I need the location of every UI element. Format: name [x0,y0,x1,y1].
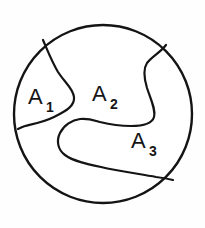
region-label-a2-letter: A [92,81,107,106]
region-label-a1-subscript: 1 [46,99,54,115]
region-label-a1-letter: A [28,84,43,109]
region-partition-diagram: A 1 A 2 A 3 [0,0,205,228]
figure-container: A 1 A 2 A 3 [0,0,205,228]
region-label-a2-subscript: 2 [110,96,118,112]
region-label-a3-letter: A [131,128,146,153]
region-label-a3-subscript: 3 [149,143,157,159]
